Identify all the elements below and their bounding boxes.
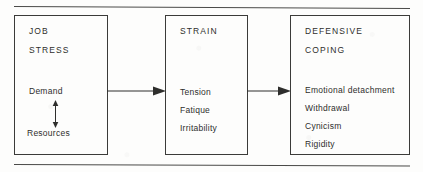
flow-diagram: JOB STRESS Demand Resources STRAIN Tensi… xyxy=(0,0,423,172)
box-defensive-coping: DEFENSIVE COPING Emotional detachment Wi… xyxy=(290,15,410,155)
irritability-label: Irritability xyxy=(180,124,217,133)
cynicism-label: Cynicism xyxy=(305,122,341,131)
rigidity-label: Rigidity xyxy=(305,140,335,149)
demand-resources-bidirectional-arrow xyxy=(51,100,60,128)
job-heading: JOB xyxy=(29,27,49,36)
bottom-horizontal-rule xyxy=(14,164,410,167)
stress-heading: STRESS xyxy=(29,46,70,55)
coping-heading: COPING xyxy=(305,46,345,55)
strain-heading: STRAIN xyxy=(180,27,218,36)
demand-label: Demand xyxy=(29,87,63,96)
box-strain: STRAIN Tension Fatique Irritability xyxy=(165,15,248,155)
emotional-detachment-label: Emotional detachment xyxy=(305,86,395,95)
box-job-stress: JOB STRESS Demand Resources xyxy=(14,15,108,155)
defensive-heading: DEFENSIVE xyxy=(305,27,363,36)
arrow-strain-to-coping xyxy=(247,85,291,97)
top-horizontal-rule xyxy=(14,6,410,9)
resources-label: Resources xyxy=(27,129,70,138)
fatique-label: Fatique xyxy=(180,106,210,115)
withdrawal-label: Withdrawal xyxy=(305,104,350,113)
arrow-stress-to-strain xyxy=(107,85,166,97)
tension-label: Tension xyxy=(180,88,211,97)
